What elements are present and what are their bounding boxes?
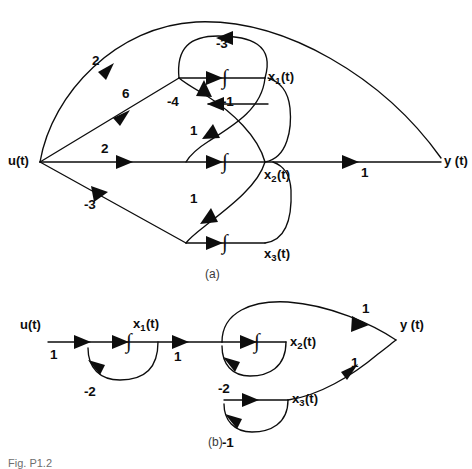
integrator-symbol-x1-b: ∫ bbox=[126, 331, 132, 352]
node-label-u-b: u(t) bbox=[20, 318, 41, 331]
gain-label-x2-to-y-b: 1 bbox=[362, 302, 369, 316]
arrowhead-u-input-b bbox=[74, 335, 91, 349]
edge-x1-loop-b bbox=[88, 342, 158, 380]
gain-label-x3-loop-b: -1 bbox=[222, 436, 234, 450]
gain-label-x1-loop-b: -2 bbox=[84, 385, 96, 399]
arrowhead-x1-to-x2dot-b bbox=[172, 335, 189, 349]
caption-b: (b) bbox=[208, 436, 223, 448]
node-label-x2-b: x2(t) bbox=[290, 335, 316, 350]
node-label-x3-b: x3(t) bbox=[292, 392, 318, 407]
arrowhead-x3-feed-b bbox=[242, 393, 259, 407]
arrowhead-x1-loop-b bbox=[88, 360, 105, 375]
gain-label-x3-to-y-b: 1 bbox=[351, 356, 358, 370]
gain-label-x1-to-x2-b: 1 bbox=[174, 350, 181, 364]
arrowhead-x2-to-y-b bbox=[351, 316, 369, 332]
edge-x3-loop-b bbox=[224, 400, 288, 432]
gain-label-u-in-b: 1 bbox=[50, 348, 57, 362]
gain-label-x2-loop-b: -2 bbox=[218, 382, 230, 396]
node-label-x1-b: x1(t) bbox=[133, 317, 159, 332]
integrator-symbol-x2-b: ∫ bbox=[254, 331, 260, 352]
figure-number-label: Fig. P1.2 bbox=[8, 458, 52, 469]
node-label-y-b: y (t) bbox=[400, 318, 424, 331]
